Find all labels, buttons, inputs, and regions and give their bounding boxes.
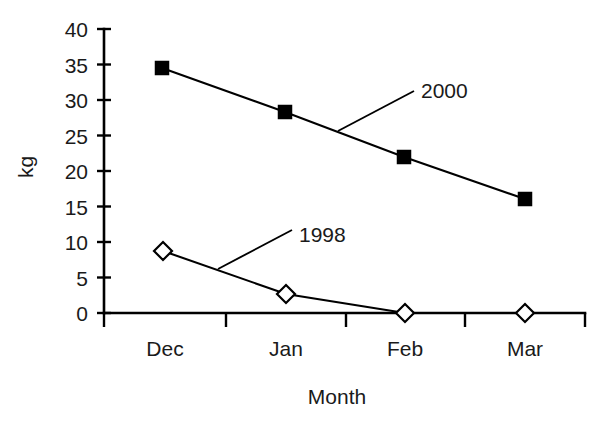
series-1998-leader-line — [218, 230, 292, 269]
series-2000-point-jan — [279, 106, 292, 119]
series-2000-point-feb — [398, 151, 411, 164]
series-2000-line — [162, 68, 525, 199]
y-tick-label-20: 20 — [65, 160, 88, 183]
series-1998-point-feb — [396, 304, 414, 322]
y-tick-label-35: 35 — [65, 54, 88, 77]
x-axis: Dec Jan Feb Mar Month — [104, 313, 585, 408]
series-1998-point-mar — [516, 304, 534, 322]
series-2000-point-dec — [156, 62, 169, 75]
y-tick-label-10: 10 — [65, 231, 88, 254]
series-1998-point-dec — [154, 242, 172, 260]
x-tick-label-mar: Mar — [507, 337, 543, 360]
x-axis-ticks — [104, 313, 585, 327]
y-tick-label-5: 5 — [76, 267, 88, 290]
series-1998-annotation-label: 1998 — [299, 223, 346, 246]
series-2000: 2000 — [156, 62, 532, 206]
y-tick-label-0: 0 — [76, 302, 88, 325]
chart-figure: 40 35 30 25 20 15 10 5 0 kg — [0, 0, 614, 427]
x-tick-label-jan: Jan — [269, 337, 303, 360]
y-tick-label-40: 40 — [65, 18, 88, 41]
x-axis-title: Month — [308, 385, 366, 408]
y-axis-title: kg — [14, 156, 37, 178]
x-tick-label-dec: Dec — [146, 337, 183, 360]
series-1998-point-jan — [277, 285, 295, 303]
y-tick-label-15: 15 — [65, 196, 88, 219]
y-axis-tick-labels: 40 35 30 25 20 15 10 5 0 — [65, 18, 88, 325]
x-axis-tick-labels: Dec Jan Feb Mar — [146, 337, 543, 360]
series-2000-leader-line — [338, 91, 414, 131]
series-1998: 1998 — [154, 223, 534, 322]
line-chart-canvas: 40 35 30 25 20 15 10 5 0 kg — [0, 0, 614, 427]
y-axis: 40 35 30 25 20 15 10 5 0 kg — [14, 18, 111, 325]
x-tick-label-feb: Feb — [387, 337, 423, 360]
series-2000-point-mar — [519, 193, 532, 206]
y-tick-label-25: 25 — [65, 125, 88, 148]
y-tick-label-30: 30 — [65, 89, 88, 112]
series-2000-annotation-label: 2000 — [421, 79, 468, 102]
series-1998-line — [163, 251, 525, 313]
